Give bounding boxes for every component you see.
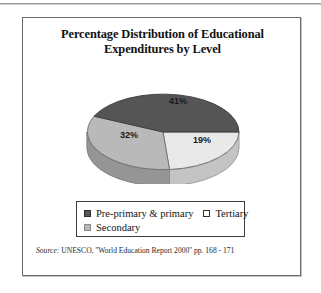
legend-item-tertiary: Tertiary bbox=[203, 208, 248, 219]
pie-label-pre-primary: 41% bbox=[169, 96, 187, 106]
chart-title-line-1: Percentage Distribution of Educational bbox=[61, 27, 264, 41]
figure-frame: Percentage Distribution of Educational E… bbox=[22, 17, 301, 276]
source-text: UNESCO, ''World Education Report 2000'' … bbox=[59, 246, 234, 255]
pie-label-secondary: 32% bbox=[120, 130, 138, 140]
legend-item-secondary: Secondary bbox=[84, 222, 140, 233]
chart-title-line-2: Expenditures by Level bbox=[37, 42, 288, 57]
legend-label-pre-primary: Pre-primary & primary bbox=[96, 208, 193, 219]
legend-item-pre-primary: Pre-primary & primary bbox=[84, 208, 193, 219]
chart-legend: Pre-primary & primary Tertiary Secondary bbox=[76, 201, 245, 237]
pie-label-tertiary: 19% bbox=[193, 135, 211, 145]
legend-label-secondary: Secondary bbox=[96, 222, 140, 233]
legend-row-2: Secondary bbox=[84, 220, 244, 234]
legend-swatch-secondary-icon bbox=[84, 224, 91, 231]
legend-swatch-pre-primary-icon bbox=[84, 210, 91, 217]
legend-swatch-tertiary-icon bbox=[203, 210, 210, 217]
source-label: Source: bbox=[36, 246, 59, 255]
page-title: Percentage Distribution of Educational E… bbox=[37, 27, 288, 57]
legend-label-tertiary: Tertiary bbox=[215, 208, 248, 219]
pie-chart-svg bbox=[83, 74, 243, 184]
pie-chart: 41% 32% 19% bbox=[83, 74, 243, 184]
source-note: Source: UNESCO, ''World Education Report… bbox=[36, 246, 234, 256]
page-edge-line-soft bbox=[0, 4, 321, 5]
legend-row-1: Pre-primary & primary Tertiary bbox=[84, 206, 244, 220]
